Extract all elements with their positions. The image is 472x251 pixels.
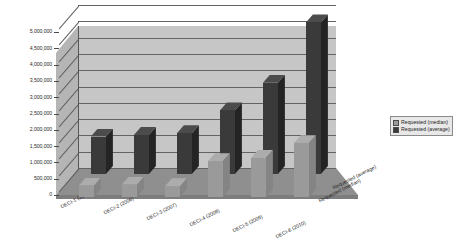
bar-side	[106, 129, 113, 174]
bar-face	[91, 137, 106, 174]
gridline	[78, 21, 336, 22]
value-axis-tick	[54, 81, 59, 82]
gridline	[78, 5, 336, 6]
bar-side	[149, 127, 156, 174]
bar-face	[251, 158, 266, 197]
legend-item: Requested (average)	[393, 126, 450, 133]
value-axis-tick-label: 2,000,000	[2, 127, 52, 132]
chart-value-axis-line	[78, 26, 79, 169]
chart-legend: Requested (median)Requested (average)	[390, 116, 453, 136]
bar-side	[235, 102, 242, 174]
value-axis-tick-label: 3,500,000	[2, 78, 52, 83]
value-axis-tick-label: 0	[2, 192, 52, 197]
bar-median-2	[122, 177, 137, 197]
gridline	[78, 70, 336, 71]
value-axis-tick	[54, 32, 59, 33]
value-axis-tick-label: 5,000,000	[2, 29, 52, 34]
gridline	[78, 38, 336, 39]
bar-side	[266, 150, 273, 197]
legend-swatch-icon	[393, 120, 399, 126]
value-axis-tick-label: 1,000,000	[2, 160, 52, 165]
bar-face	[165, 186, 180, 197]
legend-item: Requested (median)	[393, 119, 450, 126]
gridline	[78, 87, 336, 88]
category-axis-label: DECI-3 (2007)	[146, 202, 178, 221]
legend-swatch-icon	[393, 127, 399, 133]
value-axis-tick	[54, 130, 59, 131]
bar-face	[177, 133, 192, 174]
value-axis-tick	[54, 114, 59, 115]
value-axis-tick	[54, 179, 59, 180]
bar-average-2	[134, 127, 149, 174]
bar-average-1	[91, 129, 106, 174]
legend-item-label: Requested (median)	[401, 119, 448, 126]
bar-median-5	[251, 150, 266, 197]
legend-item-label: Requested (average)	[401, 126, 450, 133]
gridline	[78, 103, 336, 104]
bar-face	[122, 185, 137, 197]
category-axis-label: DECI-2 (2006)	[103, 196, 135, 215]
chart-3d-grouped-bar: 5,000,0004,500,0004,000,0003,500,0003,00…	[0, 0, 472, 251]
bar-median-6	[294, 135, 309, 197]
bar-side	[278, 75, 285, 174]
value-axis-tick-label: 4,000,000	[2, 62, 52, 67]
bar-face	[79, 186, 94, 197]
category-axis-label: DECI-5 (2009)	[232, 214, 264, 233]
value-axis-tick	[54, 162, 59, 163]
value-axis-tick	[54, 65, 59, 66]
bar-average-3	[177, 125, 192, 174]
value-axis-tick-label: 4,500,000	[2, 46, 52, 51]
bar-face	[294, 143, 309, 197]
value-axis-tick-label: 2,500,000	[2, 111, 52, 116]
bar-face	[134, 135, 149, 174]
bar-median-3	[165, 178, 180, 197]
value-axis-tick-label: 1,500,000	[2, 144, 52, 149]
value-axis-tick	[54, 97, 59, 98]
gridline	[78, 54, 336, 55]
value-axis-tick	[54, 48, 59, 49]
value-axis-tick	[54, 195, 59, 196]
bar-face	[208, 161, 223, 197]
bar-median-1	[79, 178, 94, 197]
value-axis-tick-label: 500,000	[2, 176, 52, 181]
value-axis-tick	[54, 146, 59, 147]
bar-side	[192, 125, 199, 174]
value-axis-tick-label: 3,000,000	[2, 95, 52, 100]
bar-side	[321, 14, 328, 174]
category-axis-label: DECI-4 (2008)	[189, 208, 221, 227]
category-axis-label: DECI-6 (2010)	[275, 220, 307, 239]
bar-median-4	[208, 153, 223, 197]
gridline	[78, 119, 336, 120]
gridline-left-wall	[56, 167, 79, 195]
bar-side	[309, 135, 316, 197]
